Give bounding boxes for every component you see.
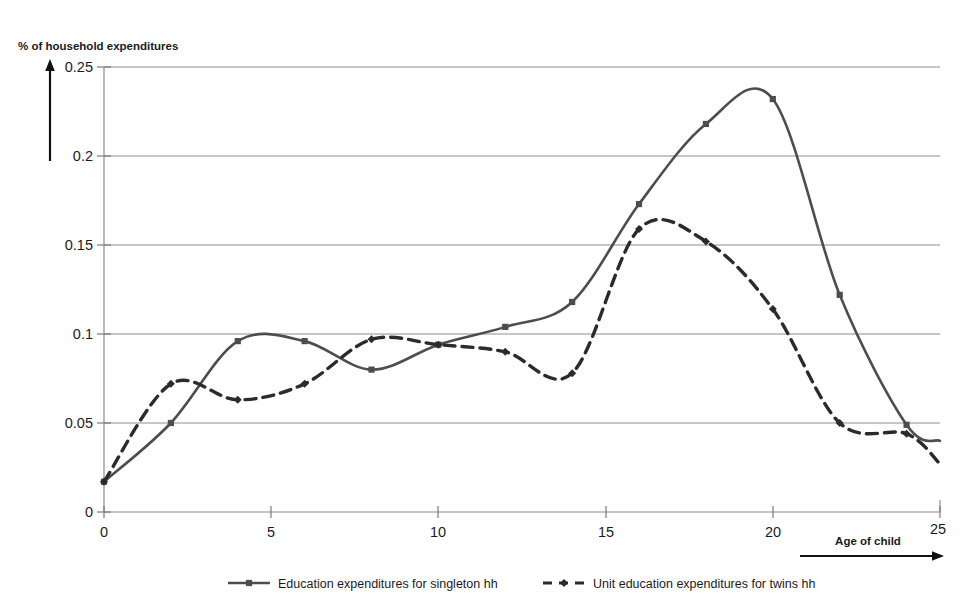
- x-tick-label: 10: [430, 524, 446, 540]
- data-point-marker: [560, 579, 568, 587]
- x-tick-label: 25: [930, 521, 946, 537]
- data-point-marker: [234, 396, 242, 404]
- y-tick-label: 0.25: [65, 59, 93, 75]
- y-axis-tick-labels: 0.25 0.2 0.15 0.1 0.05 0: [65, 59, 93, 520]
- series-1: [101, 88, 940, 484]
- y-tick-label: 0.05: [65, 415, 93, 431]
- series-line: [104, 219, 940, 481]
- y-tick-label: 0.2: [73, 148, 93, 164]
- expenditures-line-chart: % of household expenditures 0.25 0.2 0.1…: [0, 0, 975, 611]
- y-axis-arrow: [45, 59, 55, 161]
- legend-label: Unit education expenditures for twins hh: [593, 577, 815, 591]
- series-layer: [100, 88, 940, 485]
- y-tick-label: 0.15: [65, 237, 93, 253]
- gridlines: [104, 67, 940, 512]
- data-point-marker: [235, 338, 241, 344]
- legend-item-2[interactable]: Unit education expenditures for twins hh: [543, 577, 815, 591]
- data-point-marker: [569, 299, 575, 305]
- chart-legend: Education expenditures for singleton hhU…: [228, 577, 815, 591]
- data-point-marker: [246, 580, 252, 586]
- y-tick-label: 0.1: [73, 326, 93, 342]
- x-tick-label: 0: [100, 524, 108, 540]
- y-tick-label: 0: [85, 504, 93, 520]
- data-point-marker: [636, 201, 642, 207]
- legend-label: Education expenditures for singleton hh: [278, 577, 498, 591]
- x-tick-label: 15: [598, 524, 614, 540]
- data-point-marker: [903, 422, 909, 428]
- data-point-marker: [837, 292, 843, 298]
- x-axis-tick-labels: 0 5 10 15 20 25: [100, 521, 946, 540]
- y-axis-title: % of household expenditures: [18, 40, 178, 52]
- x-tick-label: 5: [267, 524, 275, 540]
- x-axis-title: Age of child: [835, 535, 901, 547]
- data-point-marker: [502, 324, 508, 330]
- data-point-marker: [368, 367, 374, 373]
- x-axis-arrow: [800, 551, 944, 561]
- x-tick-label: 20: [765, 524, 781, 540]
- data-point-marker: [302, 338, 308, 344]
- data-point-marker: [703, 121, 709, 127]
- data-point-marker: [501, 348, 509, 356]
- data-point-marker: [368, 335, 376, 343]
- data-point-marker: [168, 420, 174, 426]
- data-point-marker: [770, 96, 776, 102]
- legend-item-1[interactable]: Education expenditures for singleton hh: [228, 577, 498, 591]
